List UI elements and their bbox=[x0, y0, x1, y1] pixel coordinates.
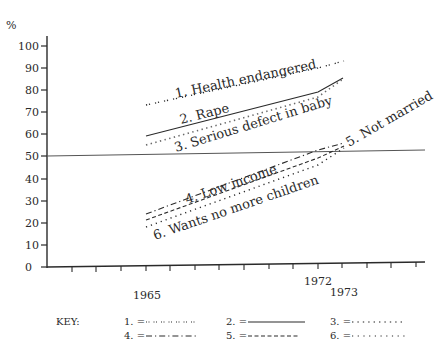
y-tick-label: 90 bbox=[25, 62, 39, 75]
y-unit-label: % bbox=[6, 19, 16, 32]
x-tick-label-1973: 1973 bbox=[330, 286, 358, 299]
y-tick-label: 30 bbox=[25, 195, 39, 208]
legend-label-2: 2. = bbox=[226, 316, 247, 327]
series-label-5: 5. Not married bbox=[343, 88, 435, 150]
y-tick-label: 10 bbox=[25, 239, 39, 252]
series-label-3: 3. Serious defect in baby bbox=[172, 92, 334, 155]
reference-line-50 bbox=[47, 150, 425, 156]
y-tick-label: 60 bbox=[25, 128, 39, 141]
x-tick-label-1965: 1965 bbox=[133, 289, 161, 302]
y-tick-labels: 0 10 20 30 40 50 60 70 80 90 100 bbox=[18, 40, 39, 274]
series-label-2: 2. Rape bbox=[178, 100, 231, 127]
legend-label-5: 5. = bbox=[226, 330, 247, 341]
y-ticks bbox=[41, 46, 47, 267]
legend-label-4: 4. = bbox=[124, 330, 145, 341]
y-tick-label: 100 bbox=[18, 40, 39, 53]
line-chart: % 0 10 20 30 40 50 60 70 80 90 100 bbox=[0, 0, 445, 360]
y-tick-label: 0 bbox=[25, 261, 32, 274]
y-tick-label: 50 bbox=[25, 150, 39, 163]
legend-label-1: 1. = bbox=[124, 316, 145, 327]
y-tick-label: 80 bbox=[25, 84, 39, 97]
x-axis bbox=[47, 262, 425, 267]
y-tick-label: 20 bbox=[25, 217, 39, 230]
series-label-1: 1. Health endangered bbox=[174, 56, 318, 101]
legend-title: KEY: bbox=[56, 316, 80, 327]
y-tick-label: 40 bbox=[25, 173, 39, 186]
legend-label-3: 3. = bbox=[330, 316, 351, 327]
y-tick-label: 70 bbox=[25, 106, 39, 119]
legend-label-6: 6. = bbox=[330, 330, 351, 341]
x-tick-label-1972: 1972 bbox=[304, 275, 332, 288]
legend: KEY: 1. = 2. = 3. = 4. = 5. = 6. = bbox=[56, 316, 406, 341]
